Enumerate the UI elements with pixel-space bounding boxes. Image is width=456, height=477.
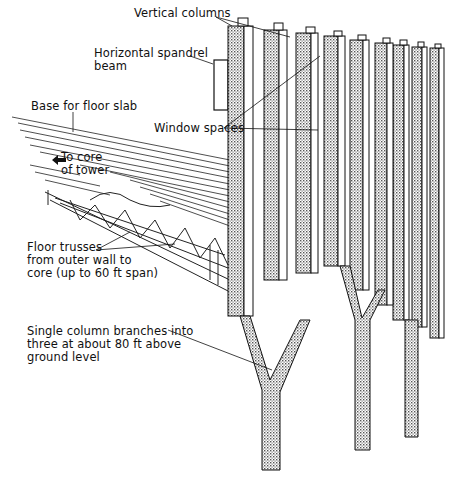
label-trusses-line2: from outer wall to [27,253,132,267]
label-core-line1: To core [61,150,102,164]
label-branch-line1: Single column branches into [27,324,193,338]
label-spandrel-line1: Horizontal spandrel [94,46,208,60]
spandrel-beam [214,60,228,110]
label-trusses-line1: Floor trusses [27,240,102,254]
label-trusses-line3: core (up to 60 ft span) [27,266,158,280]
label-core-line2: of tower [61,163,109,177]
diagram: Vertical columns Horizontal spandrel bea… [0,0,456,477]
structure-drawing [0,0,456,477]
label-floor-slab: Base for floor slab [31,99,137,113]
label-branch-line3: ground level [27,350,100,364]
label-window-spaces: Window spaces [154,121,244,135]
label-spandrel-line2: beam [94,59,127,73]
vertical-columns [228,18,444,470]
label-vertical-columns: Vertical columns [134,6,231,20]
label-branch-line2: three at about 80 ft above [27,337,181,351]
